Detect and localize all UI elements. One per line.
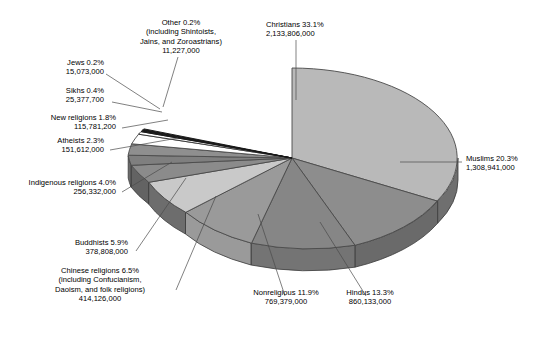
label-indigenous-religions: Indigenous religions 4.0% 256,332,000 <box>4 178 116 197</box>
label-christians: Christians 33.1% 2,133,806,000 <box>266 20 362 39</box>
label-muslims: Muslims 20.3% 1,308,941,000 <box>466 154 550 173</box>
leader-line-sikhs <box>112 102 162 112</box>
label-buddhists: Buddhists 5.9% 378,808,000 <box>36 238 128 257</box>
pie-chart-figure: Other 0.2% (including Shintoists, Jains,… <box>0 0 551 338</box>
label-other: Other 0.2% (including Shintoists, Jains,… <box>126 18 236 55</box>
label-new-religions: New religions 1.8% 115,781,200 <box>4 113 116 132</box>
leader-line-other <box>163 57 178 107</box>
label-jews: Jews 0.2% 15,073,000 <box>20 58 104 77</box>
leader-line-jews <box>106 74 160 109</box>
label-atheists: Atheists 2.3% 151,612,000 <box>20 136 104 155</box>
label-sikhs: Sikhs 0.4% 25,377,700 <box>20 86 104 105</box>
label-chinese-religions: Chinese religions 6.5% (including Confuc… <box>30 266 170 303</box>
leader-line-new-religions <box>122 120 168 128</box>
label-hindus: Hindus 13.3% 860,133,000 <box>322 288 418 307</box>
